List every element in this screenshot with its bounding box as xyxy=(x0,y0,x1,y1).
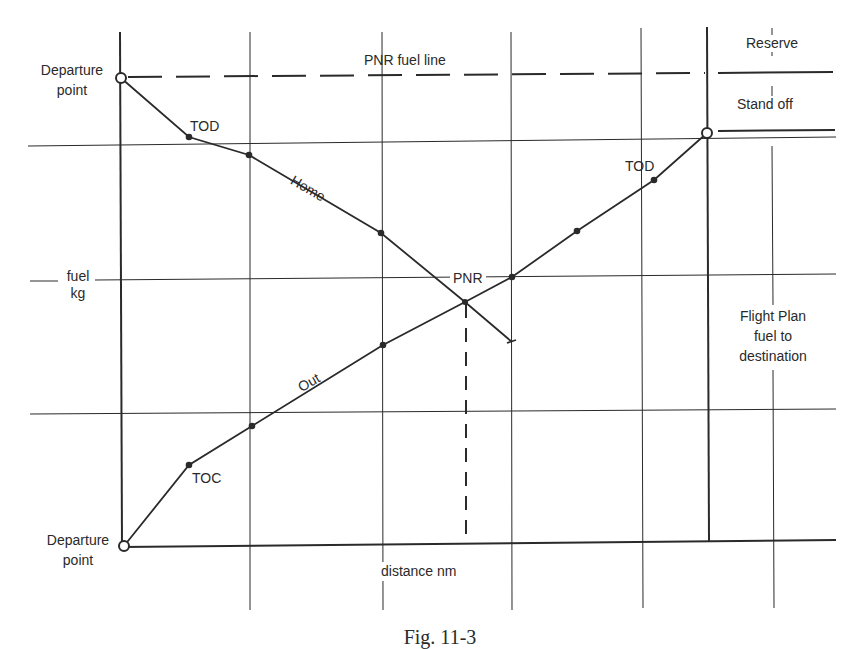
departure-point-top-label: Departure point xyxy=(30,62,114,99)
x-axis-label: distance nm xyxy=(379,562,458,581)
stand-off-label: Stand off xyxy=(735,96,795,113)
departure-point-bottom-label: Departure point xyxy=(36,532,120,569)
figure-caption: Fig. 11-3 xyxy=(390,626,490,649)
departure-label-line1: Departure xyxy=(30,62,114,79)
y-axis-label: fuel kg xyxy=(62,268,94,302)
stand-off-line xyxy=(718,130,835,131)
departure-label-line1: Departure xyxy=(36,532,120,549)
reserve-line xyxy=(718,72,833,73)
pnr-fuel-line-label: PNR fuel line xyxy=(364,52,446,69)
data-points xyxy=(186,134,658,469)
tod-home-label: TOD xyxy=(190,118,219,135)
flight-plan-line3: destination xyxy=(729,346,817,366)
pnr-label: PNR xyxy=(450,270,486,287)
home-line xyxy=(121,78,512,342)
toc-label: TOC xyxy=(192,470,221,487)
departure-label-line2: point xyxy=(30,82,114,99)
flight-plan-line1: Flight Plan xyxy=(729,306,817,326)
flight-plan-label: Flight Plan fuel to destination xyxy=(729,306,817,366)
y-axis-label-line1: fuel xyxy=(62,268,94,285)
flight-plan-line2: fuel to xyxy=(729,326,817,346)
y-axis-label-line2: kg xyxy=(62,285,94,302)
pnr-fuel-line xyxy=(128,73,705,77)
tod-out-label: TOD xyxy=(625,158,654,175)
axes xyxy=(120,27,836,547)
reserve-label: Reserve xyxy=(744,35,800,52)
departure-label-line2: point xyxy=(36,552,120,569)
vertical-grid xyxy=(250,28,774,610)
